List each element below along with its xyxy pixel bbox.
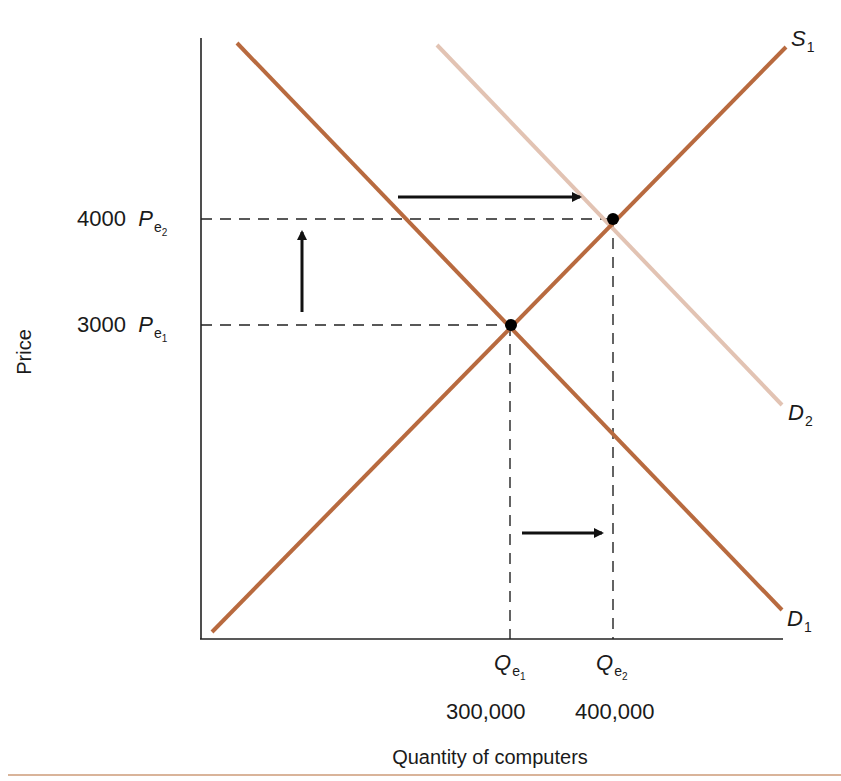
x-axis-title: Quantity of computers xyxy=(392,746,588,769)
equilibrium-point-1 xyxy=(505,319,517,331)
equilibrium-point-2 xyxy=(607,213,619,225)
x-tick-qe2: Qe2 xyxy=(596,652,627,674)
y-tick-3000: 3000 Pe1 xyxy=(77,314,167,336)
curve-label-d1: D1 xyxy=(787,608,812,630)
supply-curve-s1 xyxy=(212,47,786,632)
supply-demand-chart xyxy=(0,0,841,781)
guide-lines xyxy=(201,219,613,639)
x-tick-400000: 400,000 xyxy=(575,701,655,723)
y-tick-4000: 4000 Pe2 xyxy=(77,208,167,230)
x-tick-qe1: Qe1 xyxy=(494,652,525,674)
bottom-rule xyxy=(8,774,841,776)
y-axis-title: Price xyxy=(13,329,36,375)
curve-label-s1: S1 xyxy=(791,28,814,50)
x-tick-300000: 300,000 xyxy=(446,701,526,723)
curve-label-d2: D2 xyxy=(788,402,813,424)
